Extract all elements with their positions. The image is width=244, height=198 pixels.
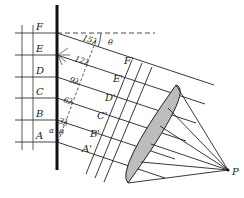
angle-arc bbox=[98, 33, 101, 47]
label-A-prime: A' bbox=[81, 143, 92, 154]
label-C-prime: C' bbox=[97, 110, 107, 121]
slit-theta-label: θ bbox=[59, 128, 64, 137]
label-D: D bbox=[35, 65, 44, 76]
label-A: A bbox=[35, 130, 43, 141]
label-C: C bbox=[36, 86, 44, 97]
huygens-spokes bbox=[58, 48, 70, 65]
path-label-12: 12λ bbox=[73, 54, 90, 67]
focal-point bbox=[227, 169, 230, 172]
label-E: E bbox=[35, 43, 44, 54]
path-label-6: 6λ bbox=[62, 95, 74, 107]
label-B-prime: B' bbox=[89, 128, 100, 139]
slit-width-label: a bbox=[49, 126, 54, 135]
label-P: P bbox=[231, 166, 239, 177]
angle-theta-label: θ bbox=[108, 38, 113, 47]
path-label-15: 15λ bbox=[81, 33, 98, 46]
diagram-svg: F E D C B A 15λ 12λ 9λ 6λ 3λ θ a θ F' E'… bbox=[0, 0, 244, 198]
path-label-3: 3λ bbox=[57, 116, 69, 128]
label-D-prime: D' bbox=[104, 92, 116, 103]
label-E-prime: E' bbox=[112, 73, 123, 84]
diffraction-diagram: F E D C B A 15λ 12λ 9λ 6λ 3λ θ a θ F' E'… bbox=[0, 0, 244, 198]
label-B: B bbox=[35, 108, 43, 119]
label-F: F bbox=[35, 21, 44, 32]
label-F-prime: F' bbox=[123, 55, 134, 66]
